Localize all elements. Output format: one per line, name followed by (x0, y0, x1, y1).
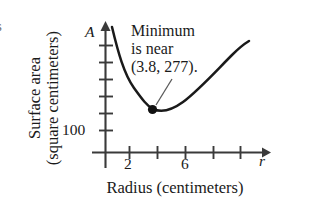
x-tick-label-6: 6 (181, 155, 189, 173)
annotation-line-1: Minimum (131, 22, 198, 40)
y-axis-variable-label: A (85, 23, 94, 41)
annotation-line-3: (3.8, 277). (131, 58, 198, 76)
y-axis-arrowhead (101, 21, 111, 31)
annotation-line-2: is near (131, 40, 198, 58)
x-tick-label-2: 2 (124, 155, 132, 173)
y-tick-label-100: 100 (62, 121, 85, 139)
minimum-annotation: Minimum is near (3.8, 277). (131, 22, 198, 76)
x-axis-title: Radius (centimeters) (78, 178, 272, 198)
minimum-point-marker (148, 105, 157, 114)
x-axis-variable-label: r (259, 152, 265, 170)
annotation-leader-line (156, 79, 172, 105)
